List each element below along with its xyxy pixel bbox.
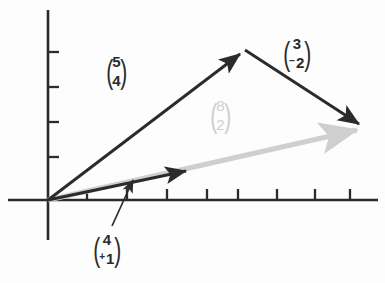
label-column: 3 −2 <box>289 36 304 70</box>
paren-right: ) <box>114 232 121 266</box>
label-top-value: 4 <box>103 232 112 247</box>
paren-left-visible: ( <box>283 36 290 70</box>
y-axis-ticks <box>48 52 59 157</box>
paren-left: ( <box>210 98 217 132</box>
label-vector-8-2: ( 8 2 ) <box>208 98 233 132</box>
label-vector-4-plus-1: ( 4 +1 ) <box>91 232 123 266</box>
label-bottom-value: −2 <box>289 55 304 70</box>
label-bottom-value: +1 <box>99 251 114 266</box>
paren-right: ) <box>120 54 127 88</box>
label-column: 4 +1 <box>99 232 114 266</box>
label-bottom-sign: − <box>289 55 295 66</box>
paren-right: ) <box>304 36 311 70</box>
diagram-canvas <box>0 0 385 283</box>
paren-left: ( <box>106 54 113 88</box>
label-vector-3-minus-2: ) ( 3 −2 ) <box>281 36 313 70</box>
paren-right: ) <box>224 98 231 132</box>
paren-left: ( <box>93 232 100 266</box>
label-bottom-sign: + <box>99 251 105 262</box>
label-top-value: 3 <box>293 36 302 51</box>
vector-diagram-figure: ( 5 4 ) ) ( 3 −2 ) ( 8 2 ) ( 4 +1 ) <box>0 0 385 283</box>
label-vector-5-4: ( 5 4 ) <box>104 54 129 88</box>
